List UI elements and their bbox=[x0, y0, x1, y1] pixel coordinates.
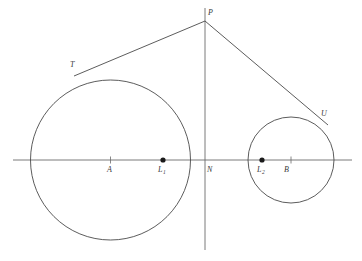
label-tangent-point-t: T bbox=[70, 61, 75, 69]
point-L2 bbox=[259, 157, 264, 162]
geometry-figure: P T U A L1 N L2 B bbox=[0, 0, 362, 261]
tangent-line-PU bbox=[205, 21, 328, 125]
geometry-canvas bbox=[0, 0, 362, 261]
point-L1 bbox=[160, 157, 165, 162]
label-focus-l1: L1 bbox=[158, 166, 166, 174]
label-center-b: B bbox=[284, 166, 289, 174]
label-l1-subscript: 1 bbox=[163, 169, 166, 175]
label-origin-n: N bbox=[207, 166, 213, 174]
axes-group bbox=[13, 8, 352, 250]
label-l2-base: L bbox=[257, 165, 262, 174]
label-center-a: A bbox=[107, 166, 112, 174]
label-l2-subscript: 2 bbox=[262, 169, 265, 175]
tangent-line-PT bbox=[74, 21, 205, 76]
label-focus-l2: L2 bbox=[257, 166, 265, 174]
label-l1-base: L bbox=[158, 165, 163, 174]
label-tangent-point-u: U bbox=[321, 110, 327, 118]
label-apex-p: P bbox=[208, 9, 213, 17]
tangent-lines-group bbox=[74, 21, 328, 125]
